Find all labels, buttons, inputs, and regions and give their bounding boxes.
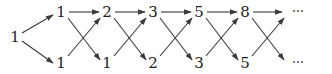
bottom-continuation: ⋯ — [292, 55, 305, 69]
bottom-node-5: 5 — [240, 54, 250, 72]
nodes-group: 1 1 2 3 5 8 ⋯ 1 1 2 3 5 ⋯ — [10, 3, 304, 72]
top-node-2: 2 — [102, 3, 112, 21]
fibonacci-diagram: 1 1 2 3 5 8 ⋯ 1 1 2 3 5 ⋯ — [0, 0, 332, 74]
diagram-canvas: 1 1 2 3 5 8 ⋯ 1 1 2 3 5 ⋯ — [0, 0, 332, 74]
top-node-1: 1 — [56, 3, 66, 21]
bottom-node-2: 1 — [102, 54, 112, 72]
edge-start-to-top — [22, 15, 53, 33]
bottom-node-1: 1 — [56, 54, 66, 72]
bottom-node-3: 2 — [148, 54, 158, 72]
top-node-5: 8 — [240, 3, 250, 21]
bottom-node-4: 3 — [194, 54, 204, 72]
top-node-4: 5 — [194, 3, 204, 21]
start-node: 1 — [10, 28, 20, 46]
top-continuation: ⋯ — [292, 4, 305, 18]
top-node-3: 3 — [148, 3, 158, 21]
edge-start-to-bottom — [22, 41, 53, 63]
